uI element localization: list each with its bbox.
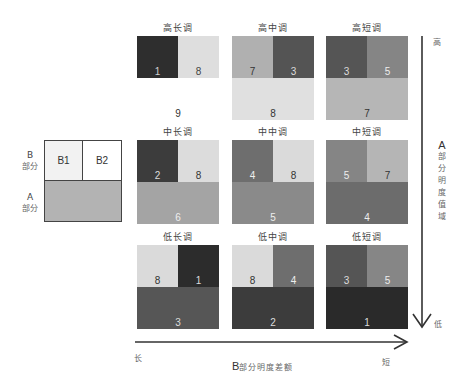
tone-tile: 485 <box>232 140 314 224</box>
tile-part-b2: 4 <box>273 245 314 287</box>
tile-part-b2: 5 <box>367 245 408 287</box>
tile-title: 低长调 <box>137 230 219 243</box>
tile-part-b1: 8 <box>137 245 178 287</box>
tile-part-b1: 3 <box>326 245 367 287</box>
tile-part-a: 2 <box>232 287 314 329</box>
legend-a <box>45 181 121 221</box>
tile-title: 高中调 <box>232 21 314 34</box>
vertical-axis-title-char: 分 <box>436 163 448 175</box>
legend-b2: B2 <box>83 141 121 181</box>
tone-tile: 574 <box>326 140 408 224</box>
tone-tile: 286 <box>137 140 219 224</box>
tile-part-b2: 8 <box>178 36 219 78</box>
tile-title: 低中调 <box>232 230 314 243</box>
horizontal-axis-arrow-icon <box>130 333 415 353</box>
legend-a-letter: A <box>18 192 42 203</box>
tile-part-b1: 4 <box>232 140 273 182</box>
tone-tile: 189 <box>137 36 219 120</box>
tile-part-b2: 7 <box>367 140 408 182</box>
tile-part-b2: 3 <box>273 36 314 78</box>
tone-tile: 813 <box>137 245 219 329</box>
legend-b1: B1 <box>45 141 83 181</box>
tile-title: 低短调 <box>326 230 408 243</box>
tile-part-b1: 8 <box>232 245 273 287</box>
vertical-axis-title-char: 域 <box>436 211 448 223</box>
legend-diagram: B1 B2 <box>44 140 122 222</box>
tile-part-b2: 5 <box>367 36 408 78</box>
legend-a-label: A 部分 <box>18 192 42 214</box>
vertical-axis-title-letter: A <box>436 139 448 151</box>
horizontal-axis-title: B部分明度差额 <box>232 355 293 374</box>
tile-title: 中短调 <box>326 125 408 138</box>
horizontal-axis-title-rest: 部分明度差额 <box>239 363 293 372</box>
tile-part-a: 3 <box>137 287 219 329</box>
vertical-axis-top-label: 高 <box>433 36 441 47</box>
vertical-axis-title-char: 值 <box>436 199 448 211</box>
tile-part-b1: 7 <box>232 36 273 78</box>
tone-tile: 351 <box>326 245 408 329</box>
tone-tile: 842 <box>232 245 314 329</box>
tile-part-b1: 5 <box>326 140 367 182</box>
tone-tile: 357 <box>326 36 408 120</box>
tile-part-a: 1 <box>326 287 408 329</box>
tile-title: 高长调 <box>137 21 219 34</box>
tile-title: 高短调 <box>326 21 408 34</box>
vertical-axis-title-char: 部 <box>436 151 448 163</box>
legend-b-sub: 部分 <box>18 161 42 172</box>
horizontal-axis-right-label: 短 <box>382 356 390 367</box>
vertical-axis-title-char: 明 <box>436 175 448 187</box>
tile-part-b1: 1 <box>137 36 178 78</box>
tile-part-b2: 8 <box>178 140 219 182</box>
legend-b-label: B 部分 <box>18 150 42 172</box>
tile-part-b1: 2 <box>137 140 178 182</box>
tile-part-a: 6 <box>137 182 219 224</box>
tile-part-a: 9 <box>137 78 219 120</box>
tone-tile: 738 <box>232 36 314 120</box>
legend-b-letter: B <box>18 150 42 161</box>
vertical-axis-bottom-label: 低 <box>434 318 442 329</box>
tile-part-b1: 3 <box>326 36 367 78</box>
horizontal-axis-left-label: 长 <box>134 352 142 363</box>
tile-part-a: 8 <box>232 78 314 120</box>
tile-title: 中长调 <box>137 125 219 138</box>
tile-title: 中中调 <box>232 125 314 138</box>
vertical-axis-title-char: 度 <box>436 187 448 199</box>
legend-a-sub: 部分 <box>18 203 42 214</box>
tile-part-b2: 8 <box>273 140 314 182</box>
tile-part-a: 5 <box>232 182 314 224</box>
tile-part-a: 4 <box>326 182 408 224</box>
tile-part-a: 7 <box>326 78 408 120</box>
tile-part-b2: 1 <box>178 245 219 287</box>
vertical-axis-title: A 部 分 明 度 值 域 <box>436 139 448 223</box>
